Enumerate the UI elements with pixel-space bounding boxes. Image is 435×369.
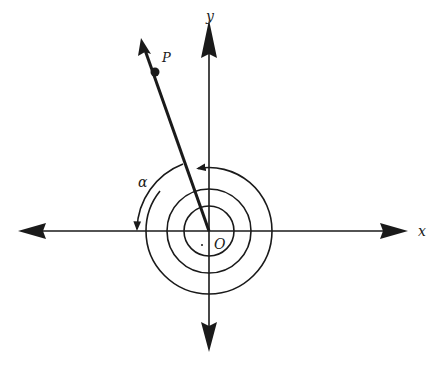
ray-arrow-icon <box>138 38 151 56</box>
origin-label: O <box>214 236 226 252</box>
angle-alpha-label: α <box>138 174 148 190</box>
point-p-dot <box>151 68 160 77</box>
y-axis-down-arrow-icon <box>201 322 217 352</box>
terminal-ray <box>138 38 209 231</box>
diagram-canvas: y x O P α <box>0 0 435 369</box>
point-p-label: P <box>161 50 171 65</box>
y-axis <box>201 20 217 352</box>
x-axis-left-arrow-icon <box>18 223 46 239</box>
polar-angle-diagram: y x O P α <box>0 0 435 369</box>
x-axis-label: x <box>418 223 426 239</box>
y-axis-label: y <box>205 8 215 24</box>
x-axis <box>18 223 408 239</box>
stray-dot <box>201 244 203 246</box>
y-axis-up-arrow-icon <box>201 20 217 58</box>
x-axis-right-arrow-icon <box>380 223 408 239</box>
